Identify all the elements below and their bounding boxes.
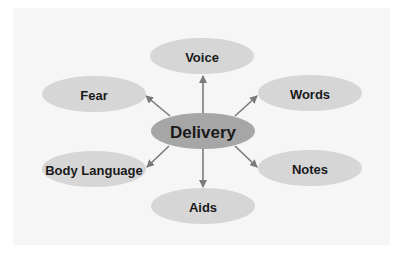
arrow-to-notes [235,146,257,167]
node-notes: Notes [258,150,362,186]
node-aids-label: Aids [189,200,217,215]
node-delivery-label: Delivery [170,123,237,142]
node-voice: Voice [150,38,254,74]
arrow-to-words [235,96,257,116]
node-fear-label: Fear [80,88,107,103]
arrow-to-body-language [147,146,169,167]
node-body-language-label: Body Language [45,163,143,178]
node-delivery: Delivery [151,113,255,149]
arrow-to-fear [146,96,170,116]
center-node-group: Delivery [151,113,255,149]
node-voice-label: Voice [185,50,219,65]
node-fear: Fear [42,76,146,112]
node-aids: Aids [151,188,255,224]
node-words: Words [258,75,362,111]
mind-map-diagram: VoiceFearWordsBody LanguageNotesAids Del… [0,0,410,258]
node-words-label: Words [290,87,330,102]
node-body-language: Body Language [42,151,146,187]
node-notes-label: Notes [292,162,328,177]
